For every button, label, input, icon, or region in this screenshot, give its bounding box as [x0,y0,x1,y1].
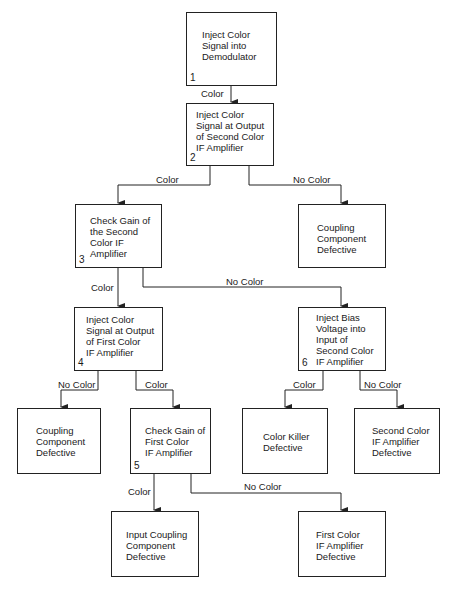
result-color-killer-defective: Color Killer Defective [242,408,328,474]
result-second-color-if-defective: Second Color IF Amplifier Defective [354,408,440,474]
edge-label-1-2: Color [201,88,224,99]
edge-label-4-5: Color [145,379,168,390]
node-text: Check Gain of the Second Color IF Amplif… [90,215,150,259]
node-text: Coupling Component Defective [317,222,366,255]
step-number: 4 [78,357,84,368]
step-number: 3 [79,254,85,265]
step-3-check-gain-second-if: Check Gain of the Second Color IF Amplif… [75,204,162,268]
edge-label-3-6: No Color [226,276,264,287]
edge-label-6-r3: Color [293,379,316,390]
result-coupling-component-defective-1: Coupling Component Defective [298,204,386,268]
step-4-inject-first-if-output: Inject Color Signal at Output of First C… [74,307,163,371]
connector-lines [0,0,453,589]
node-text: Color Killer Defective [263,431,309,453]
step-5-check-gain-first-if: Check Gain of First Color IF Amplifier 5 [130,408,211,474]
edge-label-4-r2: No Color [58,379,96,390]
edge-label-3-4: Color [91,282,114,293]
node-text: Inject Color Signal at Output of Second … [196,109,264,153]
edge-label-5-r6: No Color [244,481,282,492]
node-text: Input Coupling Component Defective [126,529,187,562]
node-text: Inject Color Signal at Output of First C… [86,314,154,358]
edge-label-2-3: Color [156,174,179,185]
result-input-coupling-defective: Input Coupling Component Defective [111,511,199,577]
step-number: 2 [190,152,196,163]
step-2-inject-second-if-output: Inject Color Signal at Output of Second … [186,103,274,166]
node-text: Inject Bias Voltage into Input of Second… [316,312,374,367]
node-text: Inject Color Signal into Demodulator [202,29,256,62]
node-text: Check Gain of First Color IF Amplifier [145,425,205,458]
step-number: 1 [190,72,196,83]
node-text: Coupling Component Defective [36,425,85,458]
node-text: First Color IF Amplifier Defective [316,529,364,562]
result-coupling-component-defective-2: Coupling Component Defective [17,408,101,474]
edge-label-6-r4: No Color [364,379,402,390]
step-number: 6 [302,357,308,368]
step-number: 5 [134,460,140,471]
step-1-inject-demodulator: Inject Color Signal into Demodulator 1 [186,12,277,86]
result-first-color-if-defective: First Color IF Amplifier Defective [298,511,386,577]
edge-label-2-r1: No Color [293,174,331,185]
edge-label-5-r5: Color [128,486,151,497]
step-6-inject-bias-voltage: Inject Bias Voltage into Input of Second… [298,307,386,371]
node-text: Second Color IF Amplifier Defective [372,425,430,458]
